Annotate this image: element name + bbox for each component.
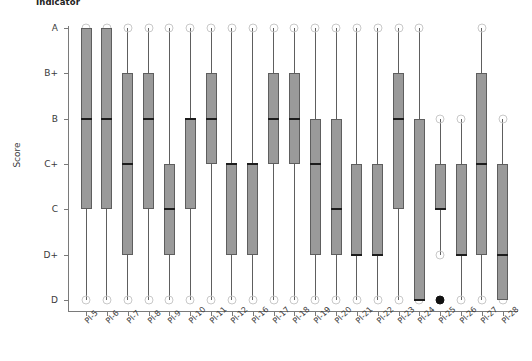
y-axis-tick-D: D [32,295,58,305]
y-axis-tick-C: C [32,204,58,214]
y-axis-tick-Cplus: C+ [32,159,58,169]
whisker-cap [498,114,507,123]
y-axis-tick-B: B [32,114,58,124]
box-plot-figure: Indicator Score AB+BC+CD+D PI-5PI-6PI-7P… [0,0,532,361]
y-axis-tick-A: A [32,23,58,33]
y-axis-title: Score [12,125,22,185]
y-axis-tick-Bplus: B+ [32,68,58,78]
median-line [497,254,508,256]
y-axis-tick-labels: AB+BC+CD+D [32,0,58,361]
box-iqr[interactable] [497,164,508,300]
box-plot-item[interactable] [68,16,518,310]
y-axis-tick-Dplus: D+ [32,250,58,260]
plot-area: PI-5PI-6PI-7PI-8PI-9PI-10PI-11PI-12PI-16… [68,16,518,310]
